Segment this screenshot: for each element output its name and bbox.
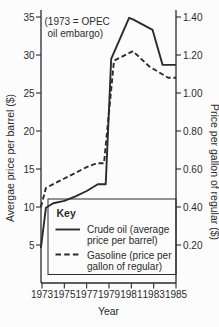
x-axis-tick-label: 1979: [98, 289, 121, 300]
legend-crude-label-line2: price per barrel): [87, 235, 158, 246]
right-axis-tick-label: 0.80: [183, 126, 203, 137]
x-axis-tick-label: 1985: [165, 289, 188, 300]
left-axis-tick-label: 25: [23, 88, 35, 99]
right-axis-tick-label: 0.60: [183, 164, 203, 175]
opec-annotation-line2: oil embargo): [48, 28, 104, 39]
left-axis-tick-label: 10: [23, 202, 35, 213]
x-axis-tick-label: 1973: [31, 289, 54, 300]
right-axis-tick-label: 0.40: [183, 202, 203, 213]
right-axis-tick-label: 1.40: [183, 12, 203, 23]
opec-annotation-line1: (1973 = OPEC: [45, 16, 110, 27]
left-axis-tick-label: 5: [29, 240, 35, 251]
x-axis-title: Year: [98, 305, 120, 317]
legend-title: Key: [57, 207, 76, 219]
right-axis-tick-label: 0.20: [183, 240, 203, 251]
left-axis-tick-label: 30: [23, 50, 35, 61]
oil-gasoline-price-chart: 35302520151051.401.201.000.800.600.400.2…: [0, 0, 219, 327]
x-axis-tick-label: 1981: [120, 289, 143, 300]
legend-gasoline-label-line2: gallon of regular): [87, 261, 162, 272]
x-axis-tick-label: 1975: [53, 289, 76, 300]
left-axis-title: Avergae price per barrel ($): [4, 94, 16, 222]
x-axis-tick-label: 1983: [143, 289, 166, 300]
legend-crude-label-line1: Crude oil (average: [87, 224, 170, 235]
left-axis-tick-label: 15: [23, 164, 35, 175]
right-axis-tick-label: 1.00: [183, 88, 203, 99]
right-axis-tick-label: 1.20: [183, 50, 203, 61]
left-axis-tick-label: 35: [23, 12, 35, 23]
figure: 35302520151051.401.201.000.800.600.400.2…: [0, 0, 219, 327]
x-axis-tick-label: 1977: [76, 289, 99, 300]
right-axis-title: Price per gallon of regular ($): [209, 104, 219, 240]
left-axis-tick-label: 20: [23, 126, 35, 137]
legend-gasoline-label-line1: Gasoline (price per: [87, 250, 172, 261]
